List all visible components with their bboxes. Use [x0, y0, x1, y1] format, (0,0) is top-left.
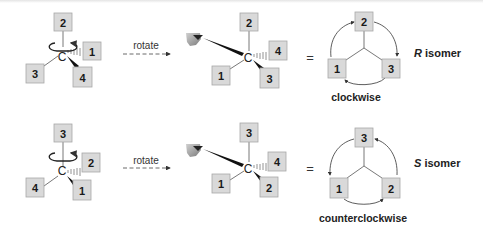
- arc-arrow-icon: [344, 199, 383, 204]
- svg-text:4: 4: [274, 156, 281, 168]
- isomer-label: R isomer: [414, 47, 462, 59]
- svg-text:2: 2: [88, 157, 94, 169]
- svg-text:2: 2: [266, 182, 272, 194]
- svg-text:2: 2: [60, 17, 66, 29]
- arc-arrow-icon: [330, 139, 354, 175]
- svg-text:3: 3: [32, 68, 38, 80]
- svg-text:1: 1: [79, 185, 85, 197]
- svg-text:3: 3: [60, 128, 66, 140]
- substituent-box: 2: [260, 177, 278, 197]
- substituent-box: 3: [54, 124, 72, 142]
- carbon-label: C: [58, 50, 67, 64]
- right-molecule: C 3 4 1 2: [186, 123, 286, 197]
- isomer-letter: R: [414, 47, 422, 59]
- substituent-box: 1: [73, 180, 91, 200]
- left-molecule: C 2 1 3 4: [26, 13, 101, 87]
- priority-box: 2: [382, 178, 400, 198]
- priority-circle: 3 1 2: [330, 128, 400, 204]
- substituent-box: 4: [269, 41, 287, 60]
- priority-box: 1: [328, 59, 346, 78]
- rotate-arrow: rotate: [123, 40, 170, 54]
- substituent-box: 2: [240, 13, 258, 31]
- svg-text:4: 4: [79, 72, 86, 84]
- arc-arrow-icon: [374, 22, 397, 56]
- arc-arrow-icon: [375, 139, 397, 175]
- substituent-box: 4: [26, 178, 44, 197]
- eye-icon: [186, 144, 244, 167]
- svg-text:3: 3: [388, 63, 394, 75]
- rotate-label: rotate: [133, 40, 159, 51]
- r-row: C 2 1 3 4 rotate: [26, 12, 462, 103]
- rotate-arrow: rotate: [123, 155, 170, 168]
- substituent-box: 3: [260, 68, 279, 88]
- substituent-box: 1: [83, 42, 101, 60]
- svg-text:1: 1: [336, 183, 342, 195]
- svg-text:3: 3: [246, 127, 252, 139]
- svg-text:2: 2: [246, 17, 252, 29]
- substituent-box: 4: [73, 67, 92, 87]
- carbon-label: C: [244, 51, 253, 65]
- direction-label: counterclockwise: [319, 212, 407, 224]
- isomer-word: isomer: [421, 157, 461, 169]
- isomer-word: isomer: [422, 47, 462, 59]
- svg-text:4: 4: [32, 182, 39, 194]
- priority-box: 3: [355, 128, 373, 147]
- right-molecule: C 2 4 1 3: [186, 13, 287, 88]
- priority-box: 2: [355, 12, 373, 31]
- eye-icon: [186, 33, 244, 56]
- svg-text:1: 1: [218, 70, 224, 82]
- left-molecule: C 3 2 4 1: [26, 124, 100, 200]
- svg-text:3: 3: [361, 132, 367, 144]
- direction-label: clockwise: [331, 91, 381, 103]
- substituent-box: 3: [26, 64, 44, 83]
- svg-text:2: 2: [361, 16, 367, 28]
- svg-text:1: 1: [218, 178, 224, 190]
- substituent-box: 1: [212, 66, 230, 85]
- substituent-box: 2: [54, 13, 72, 31]
- equals-sign: =: [306, 50, 314, 65]
- carbon-label: C: [244, 162, 253, 176]
- substituent-box: 3: [240, 123, 258, 142]
- svg-text:1: 1: [334, 63, 340, 75]
- cip-rules-diagram: C 2 1 3 4 rotate: [0, 0, 483, 233]
- priority-box: 1: [330, 178, 348, 198]
- svg-text:2: 2: [388, 183, 394, 195]
- substituent-box: 4: [268, 152, 286, 171]
- arc-arrow-icon: [331, 22, 354, 57]
- substituent-box: 2: [82, 153, 100, 172]
- isomer-label: S isomer: [414, 157, 461, 169]
- svg-text:1: 1: [89, 46, 95, 58]
- priority-box: 3: [382, 59, 400, 78]
- rotate-label: rotate: [133, 155, 159, 166]
- arc-arrow-icon: [345, 78, 385, 85]
- carbon-label: C: [58, 164, 67, 178]
- svg-text:4: 4: [275, 45, 282, 57]
- svg-text:3: 3: [266, 73, 272, 85]
- equals-sign: =: [306, 161, 314, 176]
- s-row: C 3 2 4 1 rotate: [26, 123, 461, 224]
- substituent-box: 1: [212, 174, 230, 193]
- priority-circle: 2 1 3: [328, 12, 400, 85]
